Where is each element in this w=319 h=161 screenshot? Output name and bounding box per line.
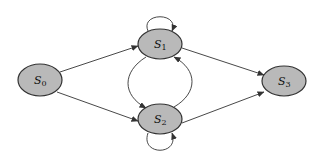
edge-s0-s2: [57, 92, 138, 121]
node-s1: S1: [138, 29, 182, 59]
edge-s2-s3: [182, 92, 264, 123]
edge-s1-s3: [182, 48, 264, 75]
edge-s1-s2: [128, 57, 146, 108]
node-s0: S0: [18, 64, 62, 96]
node-s3: S3: [262, 66, 306, 96]
edge-s0-s1: [60, 46, 138, 72]
edge-s2-s1: [174, 57, 192, 107]
state-diagram: S0 S1 S2 S3: [0, 0, 319, 161]
node-s2: S2: [138, 104, 182, 134]
self-loop-s2: [147, 133, 173, 150]
